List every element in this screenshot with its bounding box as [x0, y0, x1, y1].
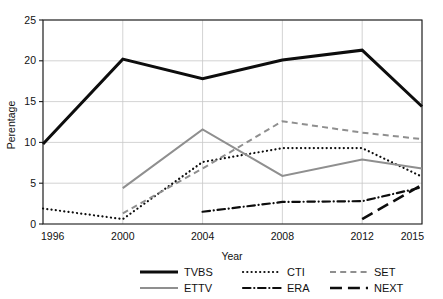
- x-axis-title: Year: [221, 250, 243, 262]
- y-axis-title: Perentage: [5, 101, 17, 150]
- y-tick-label-25: 25: [24, 14, 36, 26]
- y-tick-label-15: 15: [24, 95, 36, 107]
- legend-label-next: NEXT: [374, 282, 404, 294]
- x-tick-label-2015: 2015: [401, 230, 425, 242]
- x-tick-label-2012: 2012: [350, 230, 374, 242]
- y-tick-label-5: 5: [30, 177, 36, 189]
- x-tick-label-2004: 2004: [191, 230, 215, 242]
- y-tick-label-10: 10: [24, 136, 36, 148]
- legend-label-set: SET: [374, 266, 396, 278]
- x-tick-label-1996: 1996: [41, 230, 65, 242]
- legend-label-cti: CTI: [287, 266, 305, 278]
- x-tick-label-2008: 2008: [271, 230, 295, 242]
- y-tick-label-20: 20: [24, 54, 36, 66]
- line-chart-canvas: 0510152025 199620002004200820122015 Pere…: [0, 0, 443, 299]
- legend-label-ettv: ETTV: [184, 282, 213, 294]
- x-tick-label-2000: 2000: [111, 230, 135, 242]
- y-tick-label-0: 0: [30, 218, 36, 230]
- legend-label-era: ERA: [287, 282, 310, 294]
- legend-label-tvbs: TVBS: [184, 266, 213, 278]
- chart-figure: 0510152025 199620002004200820122015 Pere…: [0, 0, 443, 299]
